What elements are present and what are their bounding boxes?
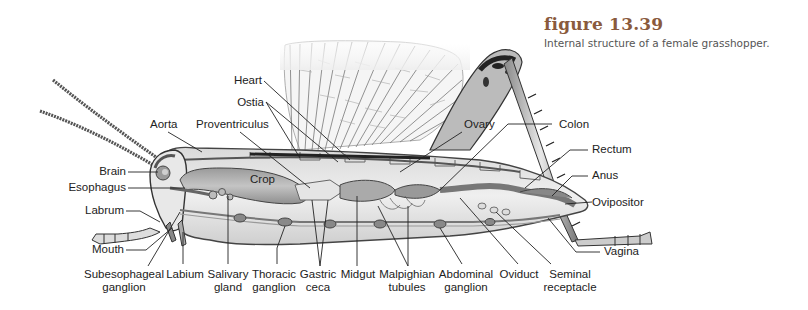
label-midgut: Midgut (341, 268, 376, 281)
label-abdominal-ganglion: Abdominal ganglion (439, 268, 493, 294)
label-heart: Heart (234, 74, 262, 87)
label-gastric-ceca: Gastric ceca (300, 268, 336, 294)
label-seminal-receptacle: Seminal receptacle (543, 268, 596, 294)
figure-canvas: Crop figure 13.39 Internal structure of … (0, 0, 808, 310)
label-ovary: Ovary (464, 118, 495, 131)
label-vagina: Vagina (604, 245, 639, 258)
label-labium: Labium (166, 268, 204, 281)
figure-title: figure 13.39 (544, 14, 663, 34)
label-anus: Anus (592, 169, 618, 182)
antennae (40, 80, 160, 168)
label-proventriculus: Proventriculus (196, 118, 269, 131)
label-oviduct: Oviduct (500, 268, 539, 281)
figure-caption: Internal structure of a female grasshopp… (544, 37, 769, 49)
label-subesophageal-ganglion: Subesophageal ganglion (84, 268, 164, 294)
label-malpighian-tubules: Malpighian tubules (379, 268, 435, 294)
label-brain: Brain (99, 165, 126, 178)
label-aorta: Aorta (150, 118, 178, 131)
label-rectum: Rectum (592, 143, 632, 156)
label-colon: Colon (559, 118, 589, 131)
label-ostia: Ostia (237, 96, 264, 109)
label-esophagus: Esophagus (68, 181, 126, 194)
crop-label: Crop (250, 173, 275, 185)
label-thoracic-ganglion: Thoracic ganglion (252, 268, 296, 294)
label-mouth: Mouth (92, 243, 124, 256)
label-ovipositor: Ovipositor (592, 196, 644, 209)
label-salivary-gland: Salivary gland (208, 268, 249, 294)
label-labrum: Labrum (85, 204, 124, 217)
